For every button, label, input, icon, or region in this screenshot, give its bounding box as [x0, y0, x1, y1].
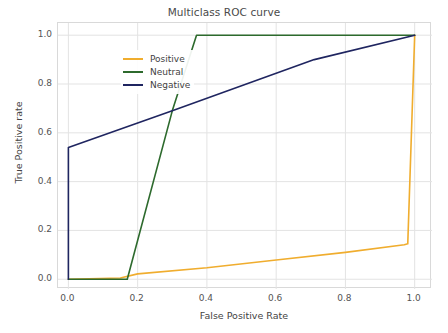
chart-title: Multiclass ROC curve: [0, 6, 448, 18]
chart-legend: PositiveNeutralNegative: [121, 50, 194, 94]
x-tick-label: 0.4: [186, 293, 226, 303]
x-tick-label: 0.8: [324, 293, 364, 303]
legend-swatch-icon: [123, 84, 143, 86]
x-tick-label: 1.0: [394, 293, 434, 303]
plot-area: PositiveNeutralNegative: [57, 22, 431, 288]
legend-item-negative[interactable]: Negative: [123, 78, 190, 91]
legend-label: Positive: [150, 54, 185, 64]
legend-label: Neutral: [150, 67, 183, 77]
legend-swatch-icon: [123, 58, 143, 60]
x-axis-label: False Positive Rate: [57, 310, 431, 321]
plot-svg: [58, 23, 432, 289]
roc-curve-figure: Multiclass ROC curve 0.00.20.40.60.81.0 …: [0, 0, 448, 333]
x-tick-label: 0.6: [255, 293, 295, 303]
x-axis-tick-labels: 0.00.20.40.60.81.0: [57, 293, 431, 307]
x-tick-label: 0.2: [117, 293, 157, 303]
legend-item-positive[interactable]: Positive: [123, 52, 190, 65]
y-tick-label: 0.0: [6, 273, 52, 283]
y-tick-label: 1.0: [6, 29, 52, 39]
y-tick-label: 0.2: [6, 224, 52, 234]
legend-label: Negative: [150, 80, 190, 90]
y-axis-tick-labels: 0.00.20.40.60.81.0: [0, 22, 52, 288]
legend-swatch-icon: [123, 71, 143, 73]
y-axis-label: True Positive rate: [13, 73, 24, 213]
x-tick-label: 0.0: [47, 293, 87, 303]
legend-item-neutral[interactable]: Neutral: [123, 65, 190, 78]
